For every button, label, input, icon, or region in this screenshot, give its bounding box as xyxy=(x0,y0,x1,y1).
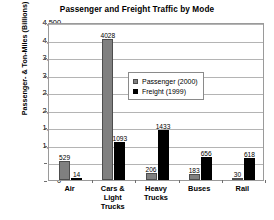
legend-swatch-icon-freight xyxy=(133,89,138,94)
y-axis-tick-mark xyxy=(44,111,47,112)
gridline xyxy=(49,112,263,113)
bar-freight: 1433 xyxy=(158,130,169,180)
x-axis-tick-mark xyxy=(265,180,266,183)
y-axis-tick-mark xyxy=(44,146,47,147)
bar-value-label: 1433 xyxy=(156,123,171,131)
bar-passenger: 30 xyxy=(232,178,243,180)
bar-passenger: 4028 xyxy=(102,39,113,180)
y-axis-tick-mark xyxy=(44,163,47,164)
chart-title: Passenger and Freight Traffic by Mode xyxy=(0,5,274,15)
x-axis-label: Rail xyxy=(221,184,264,193)
bar-value-label: 656 xyxy=(201,150,212,158)
legend-label-freight: Freight (1999) xyxy=(142,87,186,96)
legend-swatch-icon-passenger xyxy=(133,79,138,84)
bar-freight: 1093 xyxy=(114,142,125,180)
x-axis-tick-mark xyxy=(135,180,136,183)
bar-passenger: 206 xyxy=(146,173,157,180)
legend-item-freight: Freight (1999) xyxy=(133,86,198,96)
x-axis-label: Cars & Light Trucks xyxy=(91,184,134,211)
x-axis-tick-mark xyxy=(179,180,180,183)
y-axis-tick-mark xyxy=(44,58,47,59)
bar-value-label: 30 xyxy=(234,171,241,179)
bar-value-label: 206 xyxy=(145,166,156,174)
y-axis-tick-mark xyxy=(44,128,47,129)
x-axis-label: Air xyxy=(48,184,91,193)
gridline xyxy=(49,59,263,60)
x-axis-label: Buses xyxy=(178,184,221,193)
bar-value-label: 183 xyxy=(189,167,200,175)
y-axis-tick-mark xyxy=(44,76,47,77)
bar-value-label: 529 xyxy=(59,154,70,162)
bar-value-label: 618 xyxy=(244,151,255,159)
x-axis-tick-mark xyxy=(222,180,223,183)
legend-label-passenger: Passenger (2000) xyxy=(142,77,198,86)
legend-item-passenger: Passenger (2000) xyxy=(133,76,198,86)
plot-area: 5291440281093206143318365630618 xyxy=(48,23,264,181)
y-axis-tick-mark xyxy=(44,181,47,182)
bar-freight: 14 xyxy=(71,178,82,180)
chart-legend: Passenger (2000) Freight (1999) xyxy=(128,72,204,100)
x-axis-label: Heavy Trucks xyxy=(134,184,177,202)
x-axis-tick-mark xyxy=(92,180,93,183)
bar-passenger: 183 xyxy=(189,174,200,180)
chart-container: Passenger and Freight Traffic by Mode Pa… xyxy=(0,0,274,220)
bar-passenger: 529 xyxy=(59,161,70,180)
y-axis-tick-mark xyxy=(44,93,47,94)
bar-value-label: 4028 xyxy=(100,32,115,40)
gridline xyxy=(49,24,263,25)
gridline xyxy=(49,42,263,43)
bar-freight: 656 xyxy=(201,157,212,180)
bar-freight: 618 xyxy=(244,158,255,180)
y-axis-tick-mark xyxy=(44,41,47,42)
bar-value-label: 1093 xyxy=(112,135,127,143)
y-axis-tick-mark xyxy=(44,23,47,24)
bar-value-label: 14 xyxy=(73,171,80,179)
gridline xyxy=(49,147,263,148)
